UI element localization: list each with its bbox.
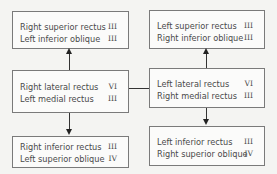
left-middle-box: Right lateral rectus VI Left medial rect…: [12, 70, 129, 113]
muscle-name: Right inferior rectus: [20, 141, 102, 153]
cranial-nerve: III: [244, 136, 253, 148]
muscle-name: Right medial rectus: [157, 90, 237, 102]
muscle-row: Right inferior oblique III: [157, 32, 257, 44]
muscle-row: Left medial rectus III: [20, 93, 121, 105]
muscle-row: Right superior rectus III: [20, 21, 121, 33]
cranial-nerve: III: [108, 93, 117, 105]
right-top-box: Left superior rectus III Right inferior …: [149, 10, 265, 49]
cranial-nerve: VI: [109, 81, 117, 93]
muscle-name: Left medial rectus: [20, 93, 94, 105]
muscle-name: Left lateral rectus: [157, 78, 229, 90]
left-up-connector: [69, 54, 70, 70]
right-up-connector: [206, 54, 207, 68]
muscle-name: Right superior rectus: [20, 21, 106, 33]
cranial-nerve: III: [244, 90, 253, 102]
cranial-nerve: III: [108, 21, 117, 33]
muscle-row: Left inferior rectus III: [157, 136, 257, 148]
muscle-row: Left superior rectus III: [157, 20, 257, 32]
muscle-name: Left superior oblique: [20, 153, 105, 165]
cranial-nerve: III: [244, 20, 253, 32]
muscle-name: Left inferior oblique: [20, 33, 100, 45]
muscle-row: Right superior oblique IV: [157, 148, 257, 160]
right-middle-box: Left lateral rectus VI Right medial rect…: [149, 68, 265, 108]
muscle-row: Right inferior rectus III: [20, 141, 121, 153]
muscle-name: Right lateral rectus: [20, 81, 98, 93]
left-down-arrow-icon: [66, 129, 72, 135]
left-up-arrow-icon: [66, 48, 72, 54]
cranial-nerve: IV: [245, 148, 253, 160]
muscle-name: Right inferior oblique: [157, 32, 243, 44]
muscle-name: Right superior oblique: [157, 148, 248, 160]
cranial-nerve: III: [108, 33, 117, 45]
left-bottom-box: Right inferior rectus III Left superior …: [12, 136, 129, 168]
middle-link-connector: [129, 88, 149, 89]
muscle-row: Left superior oblique IV: [20, 153, 121, 165]
right-down-arrow-icon: [203, 119, 209, 125]
cranial-nerve: IV: [109, 153, 117, 165]
left-top-box: Right superior rectus III Left inferior …: [12, 11, 129, 49]
muscle-name: Left superior rectus: [157, 20, 237, 32]
left-down-connector: [69, 113, 70, 130]
cranial-nerve: III: [108, 141, 117, 153]
right-up-arrow-icon: [203, 48, 209, 54]
cranial-nerve: VI: [245, 78, 253, 90]
cranial-nerve: III: [244, 32, 253, 44]
muscle-row: Right medial rectus III: [157, 90, 257, 102]
muscle-row: Left lateral rectus VI: [157, 78, 257, 90]
muscle-row: Right lateral rectus VI: [20, 81, 121, 93]
muscle-row: Left inferior oblique III: [20, 33, 121, 45]
muscle-name: Left inferior rectus: [157, 136, 232, 148]
right-bottom-box: Left inferior rectus III Right superior …: [149, 126, 265, 166]
